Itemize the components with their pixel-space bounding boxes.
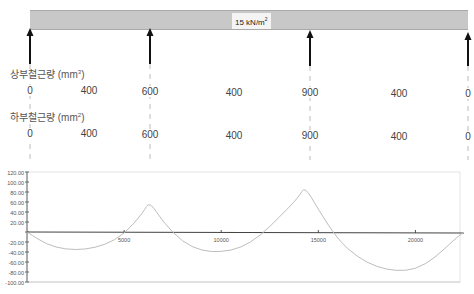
bottom-rebar-label: 하부철근량 (mm2): [10, 109, 84, 124]
x-tick-label: 20000: [408, 237, 423, 243]
y-tick-label: -60.00: [8, 260, 24, 266]
y-tick-label: 60.00: [10, 200, 24, 206]
x-tick-label: 5000: [118, 237, 130, 243]
x-tick-label: 10000: [214, 237, 229, 243]
y-tick-label: -80.00: [8, 270, 24, 276]
y-tick-label: 100.00: [7, 180, 24, 186]
x-tick-label: 15000: [311, 237, 326, 243]
top-rebar-label-close: ): [81, 69, 84, 80]
bottom-rebar-value: 400: [81, 128, 98, 139]
bottom-rebar-value: 400: [226, 130, 243, 141]
top-rebar-value: 600: [142, 86, 159, 97]
y-tick-label: 120.00: [7, 170, 24, 176]
top-rebar-value: 0: [27, 85, 33, 96]
bottom-rebar-label-close: ): [81, 112, 84, 123]
zero-axis-line: [27, 232, 464, 233]
top-rebar-value: 400: [226, 87, 243, 98]
bottom-rebar-label-text: 하부철근량 (mm: [10, 112, 78, 123]
bottom-rebar-value: 0: [465, 131, 471, 142]
y-tick-label: 20.00: [10, 220, 24, 226]
y-tick-label: -100.00: [5, 280, 24, 286]
y-tick-label: -20.00: [8, 240, 24, 246]
top-rebar-value: 400: [391, 88, 408, 99]
bottom-rebar-value: 900: [302, 130, 319, 141]
top-rebar-value: 0: [465, 88, 471, 99]
y-tick-label: 80.00: [10, 190, 24, 196]
top-rebar-label-text: 상부철근량 (mm: [10, 69, 78, 80]
plot-frame: [27, 172, 460, 282]
y-tick-label: -40.00: [8, 250, 24, 256]
y-tick-label: 40.00: [10, 210, 24, 216]
top-rebar-label: 상부철근량 (mm3): [10, 66, 84, 81]
bottom-rebar-value: 400: [391, 131, 408, 142]
bottom-rebar-value: 600: [142, 129, 159, 140]
top-rebar-value: 900: [302, 87, 319, 98]
bottom-rebar-value: 0: [27, 128, 33, 139]
moment-chart: 120.00100.0080.0060.0040.0020.00-20.00-4…: [0, 165, 474, 294]
moment-curve: [27, 190, 464, 271]
y-axis-ticks: 120.00100.0080.0060.0040.0020.00-20.00-4…: [5, 170, 29, 286]
top-rebar-value: 400: [81, 85, 98, 96]
